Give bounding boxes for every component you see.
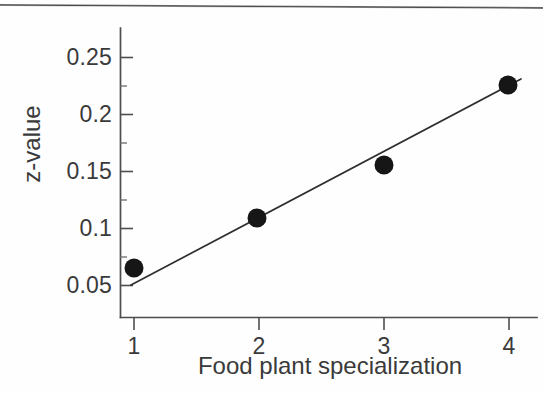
data-point [375, 156, 394, 175]
y-tick-label: 0.25 [26, 44, 112, 71]
y-tick-label: 0.05 [26, 272, 112, 299]
y-axis-major-ticks [120, 58, 133, 286]
x-axis-major-ticks [134, 317, 509, 330]
regression-line [131, 79, 521, 285]
chart-figure: 0.25 0.2 0.15 0.1 0.05 1 2 3 4 z-value F… [0, 0, 543, 394]
data-points [125, 76, 518, 278]
data-point [248, 209, 267, 228]
y-tick-label: 0.1 [26, 215, 112, 242]
x-axis-title: Food plant specialization [120, 352, 540, 380]
y-axis-title: z-value [18, 84, 46, 204]
data-point [125, 259, 144, 278]
data-point [499, 76, 518, 95]
